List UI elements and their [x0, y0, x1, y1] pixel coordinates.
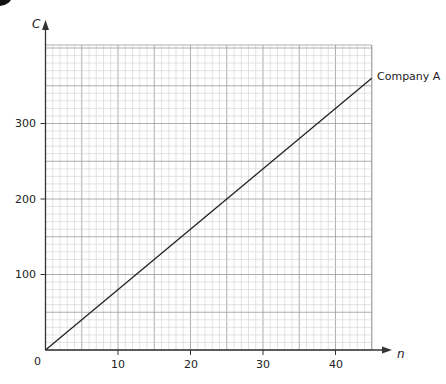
- origin-label: 0: [34, 355, 41, 368]
- x-tick-label-30: 30: [256, 358, 270, 371]
- x-axis-arrow-icon: [382, 347, 392, 354]
- y-axis-label: C: [32, 17, 41, 31]
- y-tick-label-200: 200: [15, 193, 36, 206]
- line-chart: C n 0 10 20 30 40 100 200 300 Company A: [0, 0, 446, 384]
- x-axis-label: n: [397, 347, 405, 361]
- axis-ticks: [41, 124, 336, 356]
- x-tick-label-40: 40: [329, 358, 343, 371]
- y-tick-label-100: 100: [15, 268, 36, 281]
- x-tick-label-20: 20: [184, 358, 198, 371]
- y-tick-label-300: 300: [15, 117, 36, 130]
- y-axis-arrow-icon: [42, 20, 49, 30]
- graph-paper-grid: [46, 45, 372, 350]
- series-label-company-a: Company A: [377, 70, 441, 83]
- x-tick-label-10: 10: [111, 358, 125, 371]
